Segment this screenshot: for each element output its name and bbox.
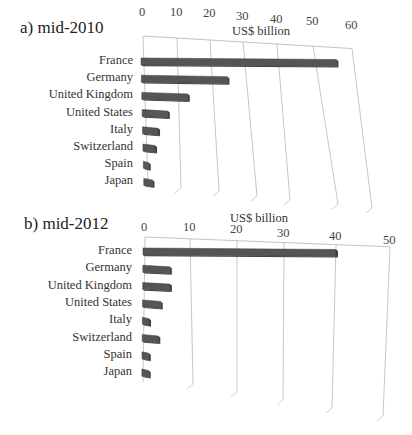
- gridline-foot: [175, 188, 181, 193]
- gridline: [277, 44, 290, 200]
- bar-cap: [155, 146, 157, 154]
- gridline-foot: [187, 384, 193, 389]
- bar-cap: [188, 94, 190, 102]
- bar-cap: [152, 180, 154, 188]
- bar-cap: [149, 371, 151, 379]
- panel-a-top-edge: [143, 36, 352, 49]
- gridline: [352, 49, 372, 208]
- bar-germany: [141, 75, 227, 84]
- gridline-foot: [377, 416, 383, 421]
- bar-cap: [227, 77, 229, 85]
- gridline: [143, 237, 145, 382]
- bar-cap: [336, 60, 338, 68]
- plot-area: [0, 0, 412, 435]
- bar-united-kingdom: [142, 92, 188, 101]
- bar-cap: [149, 163, 151, 171]
- gridline-foot: [284, 200, 290, 205]
- panel-b-top-edge: [145, 237, 390, 247]
- bar-united-states: [142, 110, 168, 119]
- bar-cap: [158, 128, 160, 136]
- gridline: [313, 46, 338, 204]
- gridline-foot: [277, 400, 283, 405]
- bar-cap: [158, 336, 160, 344]
- gridline-foot: [251, 196, 257, 201]
- gridline: [190, 239, 193, 384]
- figure: a) mid-2010 US$ billion b) mid-2012 US$ …: [0, 0, 412, 435]
- bar-cap: [170, 267, 172, 275]
- bar-cap: [336, 250, 338, 258]
- bar-cap: [161, 301, 163, 309]
- gridline: [332, 245, 336, 408]
- gridline: [283, 243, 284, 400]
- bar-cap: [170, 284, 172, 292]
- gridline-foot: [213, 191, 219, 196]
- gridline-foot: [326, 408, 332, 413]
- bar-cap: [149, 319, 151, 327]
- gridline: [383, 247, 390, 416]
- gridline-foot: [332, 204, 338, 209]
- gridline-foot: [366, 208, 372, 213]
- bar-cap: [168, 111, 170, 119]
- bar-cap: [149, 353, 151, 361]
- gridline-foot: [231, 392, 237, 397]
- bar-france: [141, 58, 336, 67]
